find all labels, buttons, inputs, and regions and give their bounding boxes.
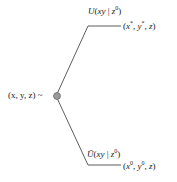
lower-outcome: (x0, y0, z) xyxy=(123,160,156,171)
upper-outcome: (x*, y*, z) xyxy=(123,20,156,31)
lower-edge-label: Ū(xy | z0) xyxy=(87,148,120,159)
upper-branch-edge xyxy=(57,26,88,94)
lower-branch-edge xyxy=(57,98,88,165)
upper-edge-label: U(xy | z0) xyxy=(88,5,121,16)
root-node xyxy=(54,93,61,100)
root-label: (x, y, z) ~ xyxy=(8,90,43,100)
